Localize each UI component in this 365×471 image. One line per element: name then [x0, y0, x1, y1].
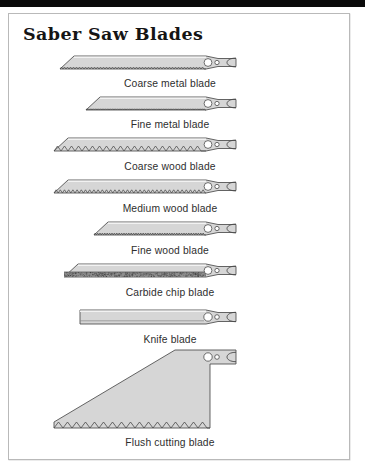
- blade-illustration-coarse-wood: [0, 132, 340, 157]
- blade-label-coarse-metal: Coarse metal blade: [0, 78, 340, 89]
- blade-label-medium-wood: Medium wood blade: [0, 203, 340, 214]
- blade-label-coarse-wood: Coarse wood blade: [0, 161, 340, 172]
- blade-illustration-fine-wood: [0, 216, 340, 241]
- top-black-bar: [0, 0, 365, 7]
- page-title: Saber Saw Blades: [23, 24, 203, 44]
- blade-label-carbide-chip: Carbide chip blade: [0, 287, 340, 298]
- blade-label-fine-wood: Fine wood blade: [0, 245, 340, 256]
- blade-illustration-fine-metal: [0, 91, 340, 116]
- blade-illustration-knife: [0, 304, 340, 330]
- blade-illustration-medium-wood: [0, 174, 340, 199]
- blade-label-knife: Knife blade: [0, 334, 340, 345]
- blade-label-fine-metal: Fine metal blade: [0, 119, 340, 130]
- blade-illustration-flush-cutting: [0, 346, 340, 432]
- blade-illustration-coarse-metal: [0, 50, 340, 75]
- blade-label-flush-cutting: Flush cutting blade: [0, 437, 340, 448]
- blade-illustration-carbide-chip: [0, 258, 340, 283]
